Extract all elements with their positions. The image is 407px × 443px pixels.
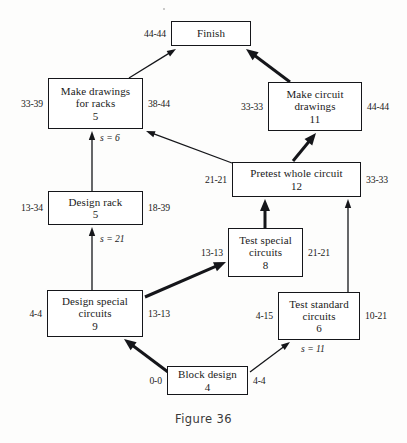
- edge-pretest-to-make-circuit-drawings: [293, 133, 316, 161]
- node-make-circuit-drawings: Make circuitdrawings11: [268, 82, 362, 131]
- node-duration: 5: [93, 208, 99, 220]
- node-label-line: Design rack: [69, 196, 123, 208]
- node-duration: 11: [310, 113, 321, 125]
- node-test-special-circuits: Test specialcircuits8: [228, 228, 303, 277]
- node-design-rack: Design rack5: [48, 191, 143, 225]
- edge-test-standard-to-pretest: [345, 199, 351, 292]
- node-label-line: Finish: [197, 27, 225, 39]
- node-label-line: Design special: [62, 295, 128, 307]
- node-duration: 8: [263, 259, 269, 271]
- event-tag-left-design-rack: 13-34: [21, 202, 43, 213]
- event-tag-left-finish: 44-44: [144, 28, 166, 39]
- node-finish: Finish: [171, 21, 251, 46]
- edge-block-design-to-design-special: [124, 339, 168, 372]
- event-tag-left-design-special-circuits: 4-4: [29, 308, 42, 319]
- node-label-line: Block design: [178, 368, 237, 380]
- node-label-line: circuits: [249, 246, 282, 258]
- event-tag-left-test-standard-circuits: 4-15: [256, 310, 273, 321]
- event-tag-left-pretest-whole-circuit: 21-21: [205, 174, 227, 185]
- event-tag-left-make-drawings-for-racks: 33-39: [21, 98, 43, 109]
- node-test-standard-circuits: Test standardcircuits6: [278, 292, 360, 340]
- event-tag-right-design-rack: 18-39: [148, 202, 170, 213]
- node-duration: 5: [93, 110, 99, 122]
- node-block-design: Block design4: [167, 366, 248, 395]
- node-label-line: Test standard: [289, 298, 349, 310]
- edge-design-special-to-test-special: [145, 262, 226, 297]
- edge-block-design-to-test-standard: [250, 342, 290, 372]
- node-label-line: Make drawings: [61, 85, 130, 97]
- figure-caption: Figure 36: [0, 412, 407, 426]
- node-label-line: circuits: [302, 310, 335, 322]
- node-label-line: Pretest whole circuit: [250, 167, 343, 179]
- node-design-special-circuits: Design specialcircuits9: [47, 290, 143, 337]
- event-tag-left-make-circuit-drawings: 33-33: [241, 101, 263, 112]
- edge-make-drawings-to-finish: [129, 49, 176, 78]
- edge-pretest-to-make-drawings: [146, 131, 232, 163]
- edge-design-rack-to-make-drawings: [89, 131, 95, 191]
- node-duration: 9: [92, 320, 98, 332]
- edge-make-circuit-drawings-to-finish: [246, 49, 290, 82]
- event-tag-right-block-design: 4-4: [253, 375, 266, 386]
- node-label-line: circuits: [78, 307, 111, 319]
- event-tag-left-test-special-circuits: 13-13: [201, 247, 223, 258]
- node-duration: 4: [205, 381, 211, 393]
- node-label-line: Test special: [239, 234, 292, 246]
- event-tag-right-pretest-whole-circuit: 33-33: [366, 174, 388, 185]
- paper-speck: [163, 8, 165, 10]
- edge-design-special-to-design-rack: [89, 227, 95, 290]
- event-tag-right-design-special-circuits: 13-13: [148, 308, 170, 319]
- event-tag-right-make-drawings-for-racks: 38-44: [148, 98, 170, 109]
- slack-design-rack: s = 21: [100, 233, 125, 244]
- node-duration: 6: [316, 322, 322, 334]
- node-make-drawings-for-racks: Make drawingsfor racks5: [48, 78, 143, 129]
- figure-36-network-diagram: Finish44-44Make drawingsfor racks533-393…: [0, 0, 407, 443]
- event-tag-right-test-standard-circuits: 10-21: [365, 310, 387, 321]
- event-tag-left-block-design: 0-0: [149, 375, 162, 386]
- node-label-line: for racks: [76, 97, 116, 109]
- slack-make-drawings-for-racks: s = 6: [100, 132, 120, 143]
- node-duration: 12: [291, 180, 302, 192]
- node-label-line: drawings: [294, 100, 335, 112]
- event-tag-right-test-special-circuits: 21-21: [308, 247, 330, 258]
- edge-test-special-to-pretest: [260, 199, 270, 228]
- node-label-line: Make circuit: [286, 88, 343, 100]
- event-tag-right-make-circuit-drawings: 44-44: [367, 101, 389, 112]
- slack-test-standard-circuits: s = 11: [301, 343, 325, 354]
- node-pretest-whole-circuit: Pretest whole circuit12: [232, 162, 361, 197]
